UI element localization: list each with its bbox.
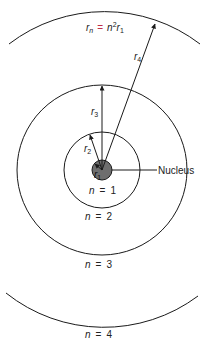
label-r2: r2 [84, 143, 91, 155]
orbit-n4-top-arc [9, 12, 200, 44]
label-r3: r3 [91, 106, 98, 118]
formula-equals: = [97, 22, 103, 33]
radius-r4-arrow [102, 24, 155, 170]
formula: rn=n2r1 [86, 21, 124, 34]
nucleus-label: Nucleus [158, 165, 194, 176]
orbit-n4-bottom-arc [6, 293, 198, 327]
orbit-label-n2: n=2 [85, 211, 112, 222]
bohr-orbit-diagram: rn=n2r1 r4 r3 r2 r1 Nucleus n=1 n=2 n=3 … [0, 0, 213, 342]
orbit-label-n4: n=4 [85, 329, 112, 340]
orbit-label-n3: n=3 [85, 259, 112, 270]
orbit-label-n1: n=1 [89, 185, 116, 196]
label-r4: r4 [134, 51, 141, 63]
